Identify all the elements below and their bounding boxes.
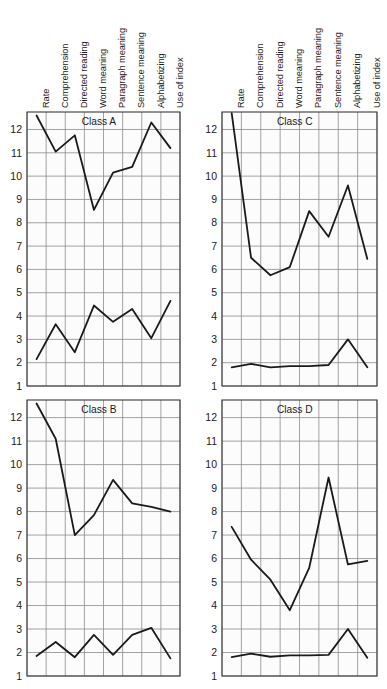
y-axis-tick-label: 2 (211, 356, 217, 368)
y-axis-tick-label: 3 (16, 333, 22, 345)
column-header-use-of-index: Use of index (175, 58, 185, 108)
y-axis-tick-label: 4 (211, 310, 217, 322)
y-axis-tick-label: 4 (16, 310, 22, 322)
column-header-sentence-meaning: Sentence meaning (136, 32, 146, 108)
chart-svg-class-c: 121110987654321Class C (198, 110, 381, 396)
column-header-paragraph-meaning: Paragraph meaning (313, 28, 323, 108)
y-axis-tick-label: 11 (11, 435, 22, 447)
y-axis-tick-label: 12 (205, 123, 217, 135)
y-axis-tick-label: 10 (10, 458, 22, 470)
y-axis-tick-label: 6 (16, 263, 22, 275)
y-axis-tick-label: 2 (16, 356, 22, 368)
y-axis-tick-label: 11 (206, 435, 217, 447)
y-axis-tick-label: 9 (211, 193, 217, 205)
column-header-comprehension: Comprehension (255, 44, 265, 108)
column-header-rate: Rate (41, 89, 51, 108)
column-header-paragraph-meaning: Paragraph meaning (117, 28, 127, 108)
y-axis-tick-label: 8 (211, 216, 217, 228)
y-axis-tick-label: 1 (16, 670, 22, 682)
chart-svg-class-b: 121110987654321Class B (3, 398, 184, 686)
y-axis-tick-label: 10 (205, 170, 217, 182)
column-header-alphabetizing: Alphabetizing (156, 53, 166, 108)
y-axis-tick-label: 3 (211, 623, 217, 635)
y-axis-tick-label: 12 (205, 411, 217, 423)
y-axis-tick-label: 9 (16, 482, 22, 494)
y-axis-tick-label: 2 (211, 646, 217, 658)
y-axis-tick-label: 9 (211, 482, 217, 494)
column-header-use-of-index: Use of index (372, 58, 382, 108)
y-axis-tick-label: 8 (16, 216, 22, 228)
y-axis-tick-label: 5 (211, 286, 217, 298)
y-axis-tick-label: 7 (211, 529, 217, 541)
chart-svg-class-d: 121110987654321Class D (198, 398, 381, 686)
panel-title: Class B (81, 404, 116, 415)
y-axis-tick-label: 1 (211, 380, 217, 392)
y-axis-tick-label: 12 (10, 411, 22, 423)
y-axis-tick-label: 10 (10, 170, 22, 182)
y-axis-tick-label: 5 (16, 286, 22, 298)
y-axis-tick-label: 1 (16, 380, 22, 392)
chart-panel-class-b: 121110987654321Class B (3, 398, 184, 686)
y-axis-tick-label: 8 (211, 505, 217, 517)
y-axis-tick-label: 3 (211, 333, 217, 345)
chart-panel-class-a: 121110987654321Class A (3, 110, 184, 396)
column-header-comprehension: Comprehension (60, 44, 70, 108)
y-axis-tick-label: 5 (211, 576, 217, 588)
column-header-rate: Rate (236, 89, 246, 108)
column-header-word-meaning: Word meaning (294, 49, 304, 108)
column-header-sentence-meaning: Sentence meaning (333, 32, 343, 108)
column-header-directed-reading: Directed reading (79, 41, 89, 108)
y-axis-tick-label: 4 (16, 599, 22, 611)
column-header-directed-reading: Directed reading (275, 41, 285, 108)
y-axis-tick-label: 8 (16, 505, 22, 517)
column-header-alphabetizing: Alphabetizing (352, 53, 362, 108)
figure-root: RateComprehensionDirected readingWord me… (0, 0, 387, 689)
y-axis-tick-label: 9 (16, 193, 22, 205)
y-axis-tick-label: 11 (11, 147, 22, 159)
panel-title: Class A (82, 116, 117, 127)
y-axis-tick-label: 6 (211, 263, 217, 275)
y-axis-tick-label: 5 (16, 576, 22, 588)
y-axis-tick-label: 10 (205, 458, 217, 470)
y-axis-tick-label: 2 (16, 646, 22, 658)
chart-svg-class-a: 121110987654321Class A (3, 110, 184, 396)
panel-title: Class D (277, 404, 313, 415)
y-axis-tick-label: 11 (206, 147, 217, 159)
column-header-word-meaning: Word meaning (98, 49, 108, 108)
y-axis-tick-label: 7 (211, 240, 217, 252)
y-axis-tick-label: 6 (211, 552, 217, 564)
chart-panel-class-d: 121110987654321Class D (198, 398, 381, 686)
y-axis-tick-label: 7 (16, 240, 22, 252)
chart-panel-class-c: 121110987654321Class C (198, 110, 381, 396)
y-axis-tick-label: 1 (211, 670, 217, 682)
y-axis-tick-label: 6 (16, 552, 22, 564)
panel-title: Class C (277, 116, 313, 127)
y-axis-tick-label: 4 (211, 599, 217, 611)
y-axis-tick-label: 3 (16, 623, 22, 635)
y-axis-tick-label: 7 (16, 529, 22, 541)
y-axis-tick-label: 12 (10, 123, 22, 135)
